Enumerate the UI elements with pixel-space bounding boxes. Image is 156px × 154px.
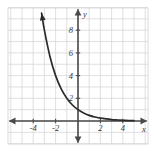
y-axis-label: y (82, 9, 87, 19)
graph-figure: -4-224 2468 x y (0, 0, 156, 154)
coordinate-plane-chart: -4-224 2468 x y (0, 0, 156, 154)
x-tick-label: 4 (121, 123, 126, 133)
x-tick-label: 2 (98, 123, 103, 133)
x-tick-label: -2 (52, 123, 60, 133)
x-tick-label: -4 (30, 123, 38, 133)
x-axis-label: x (141, 124, 146, 134)
